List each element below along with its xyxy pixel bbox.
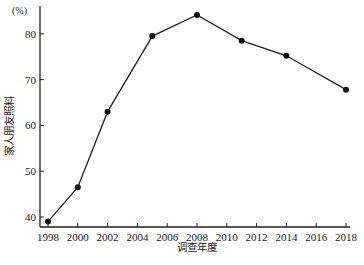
- data-point-marker: [239, 38, 245, 44]
- x-tick-label: 2002: [97, 231, 119, 243]
- plot-area: [45, 12, 349, 225]
- y-axis-title: 家人朋友照料: [3, 95, 15, 156]
- x-tick-label: 2014: [275, 231, 298, 243]
- x-tick-label: 2004: [126, 231, 149, 243]
- x-tick-label: 2006: [156, 231, 179, 243]
- x-tick-label: 2016: [305, 231, 328, 243]
- y-tick-label: 40: [25, 211, 37, 223]
- series-line: [48, 15, 346, 222]
- x-tick-label: 2012: [246, 231, 268, 243]
- data-point-marker: [149, 33, 155, 39]
- axes: 4050607080199820002002200420062008201020…: [25, 6, 358, 243]
- x-tick-label: 2000: [67, 231, 90, 243]
- data-point-marker: [75, 184, 81, 190]
- data-point-marker: [105, 109, 111, 115]
- y-tick-label: 60: [25, 119, 37, 131]
- data-point-marker: [194, 12, 200, 18]
- x-tick-label: 2018: [335, 231, 358, 243]
- data-point-marker: [343, 87, 349, 93]
- y-tick-label: 70: [25, 74, 37, 86]
- x-axis-title: 调查年度: [177, 241, 218, 253]
- x-tick-label: 1998: [37, 231, 60, 243]
- y-tick-label: 80: [25, 28, 37, 40]
- data-point-marker: [283, 53, 289, 59]
- y-unit-label: (%): [12, 5, 27, 17]
- line-chart: 4050607080199820002002200420062008201020…: [0, 0, 364, 265]
- x-tick-label: 2010: [216, 231, 239, 243]
- data-point-marker: [45, 219, 51, 225]
- y-tick-label: 50: [25, 165, 37, 177]
